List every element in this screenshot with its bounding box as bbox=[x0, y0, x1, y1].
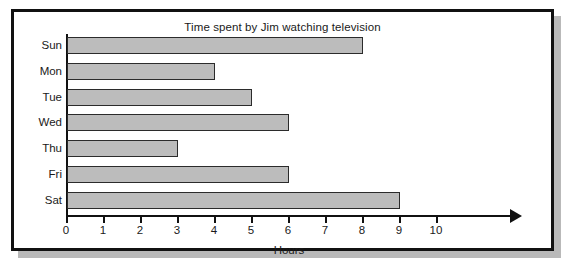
x-tick-mark-0 bbox=[66, 217, 68, 223]
x-tick-mark-5 bbox=[251, 217, 253, 223]
bar-sat bbox=[67, 192, 400, 209]
category-label-mon: Mon bbox=[40, 63, 62, 80]
category-axis-labels: SunMonTueWedThuFriSat bbox=[16, 34, 62, 215]
bar-fri bbox=[67, 166, 289, 183]
x-tick-label-5: 5 bbox=[238, 224, 264, 236]
x-tick-label-6: 6 bbox=[275, 224, 301, 236]
bar-fill bbox=[67, 63, 215, 80]
bar-sun bbox=[67, 37, 363, 54]
category-label-sat: Sat bbox=[45, 192, 62, 209]
category-label-sun: Sun bbox=[42, 37, 62, 54]
x-tick-mark-4 bbox=[214, 217, 216, 223]
bar-wed bbox=[67, 114, 289, 131]
chart-figure: Time spent by Jim watching television Su… bbox=[0, 0, 573, 266]
x-tick-mark-2 bbox=[140, 217, 142, 223]
x-tick-mark-10 bbox=[436, 217, 438, 223]
x-tick-label-3: 3 bbox=[164, 224, 190, 236]
category-label-fri: Fri bbox=[49, 166, 62, 183]
bar-fill bbox=[67, 89, 252, 106]
category-label-thu: Thu bbox=[42, 140, 62, 157]
x-tick-label-10: 10 bbox=[423, 224, 449, 236]
bar-mon bbox=[67, 63, 215, 80]
bar-tue bbox=[67, 89, 252, 106]
bar-fill bbox=[67, 140, 178, 157]
bar-fill bbox=[67, 166, 289, 183]
chart-title: Time spent by Jim watching television bbox=[14, 21, 551, 33]
x-tick-label-7: 7 bbox=[312, 224, 338, 236]
x-tick-label-8: 8 bbox=[349, 224, 375, 236]
x-tick-label-0: 0 bbox=[53, 224, 79, 236]
bar-series bbox=[67, 34, 527, 215]
x-tick-mark-1 bbox=[103, 217, 105, 223]
plot-area: SunMonTueWedThuFriSat 012345678910 Hours bbox=[66, 34, 546, 230]
x-tick-label-1: 1 bbox=[90, 224, 116, 236]
category-label-tue: Tue bbox=[43, 89, 62, 106]
bar-thu bbox=[67, 140, 178, 157]
x-tick-label-4: 4 bbox=[201, 224, 227, 236]
x-tick-label-2: 2 bbox=[127, 224, 153, 236]
x-tick-mark-3 bbox=[177, 217, 179, 223]
category-label-wed: Wed bbox=[39, 114, 62, 131]
bar-fill bbox=[67, 114, 289, 131]
x-axis-title: Hours bbox=[66, 244, 512, 256]
x-tick-mark-6 bbox=[288, 217, 290, 223]
x-tick-label-9: 9 bbox=[386, 224, 412, 236]
bar-fill bbox=[67, 37, 363, 54]
x-tick-mark-9 bbox=[399, 217, 401, 223]
bar-fill bbox=[67, 192, 400, 209]
chart-frame: Time spent by Jim watching television Su… bbox=[11, 9, 554, 251]
x-tick-mark-7 bbox=[325, 217, 327, 223]
x-tick-mark-8 bbox=[362, 217, 364, 223]
